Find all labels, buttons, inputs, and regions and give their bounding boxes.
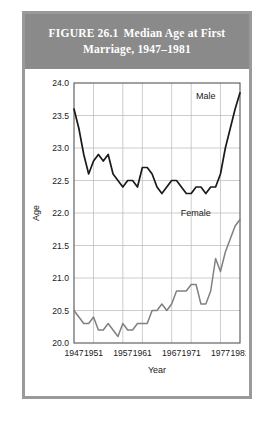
figure-title-line2: Marriage, 1947–1981 (83, 43, 191, 55)
y-axis-tick-label: 21.0 (52, 273, 69, 283)
x-axis-tick-label: 1981 (230, 348, 246, 358)
plot-region: 20.020.521.021.522.022.523.023.524.01947… (25, 69, 249, 395)
x-axis-tick-label: 1971 (182, 348, 201, 358)
line-chart: 20.020.521.021.522.022.523.023.524.01947… (28, 75, 246, 387)
figure-title-line1: Median Age at First (124, 27, 226, 39)
y-axis-tick-label: 20.5 (52, 306, 69, 316)
y-axis-title: Age (31, 205, 41, 221)
x-axis-tick-label: 1967 (162, 348, 181, 358)
y-axis-tick-label: 23.5 (52, 111, 69, 121)
series-label-female: Female (181, 208, 211, 218)
x-axis-tick-label: 1977 (211, 348, 230, 358)
y-axis-tick-label: 20.0 (52, 338, 69, 348)
figure-number: FIGURE 26.1 (49, 27, 119, 39)
series-line-male (74, 93, 240, 194)
y-axis-tick-label: 22.0 (52, 208, 69, 218)
y-axis-tick-label: 24.0 (52, 78, 69, 88)
y-axis-tick-label: 23.0 (52, 143, 69, 153)
y-axis-tick-label: 21.5 (52, 241, 69, 251)
x-axis-tick-label: 1961 (133, 348, 152, 358)
x-axis-title: Year (148, 365, 166, 375)
figure-header: FIGURE 26.1Median Age at First Marriage,… (25, 14, 249, 69)
series-label-male: Male (196, 91, 216, 101)
x-axis-tick-label: 1957 (113, 348, 132, 358)
x-axis-tick-label: 1951 (84, 348, 103, 358)
figure-card: FIGURE 26.1Median Age at First Marriage,… (22, 11, 252, 399)
y-axis-tick-label: 22.5 (52, 176, 69, 186)
x-axis-tick-label: 1947 (64, 348, 83, 358)
